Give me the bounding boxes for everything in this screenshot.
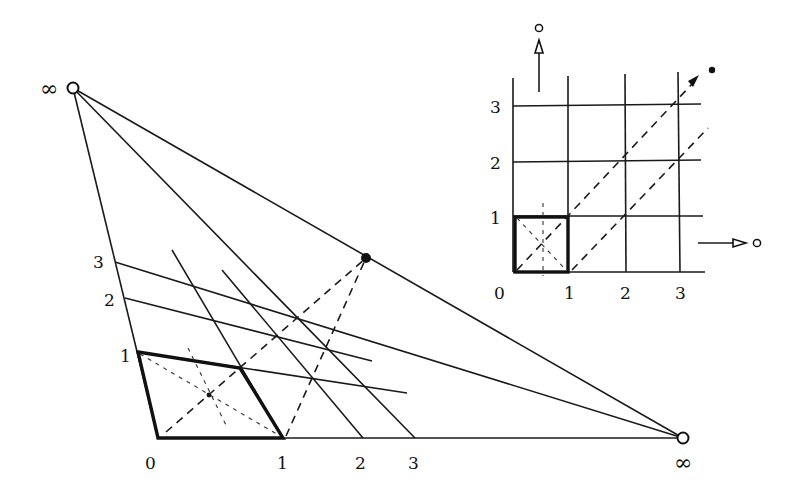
- inset-x-label-0: 0: [494, 283, 505, 303]
- cell-median: [188, 348, 226, 425]
- inset-diagonal-offset: [572, 128, 708, 270]
- diagonal-vanishing-point: [361, 253, 371, 263]
- right-arrow-head-icon: [733, 239, 746, 247]
- infinity-label-top: ∞: [40, 76, 58, 101]
- diagonal-target-dot: [709, 67, 715, 73]
- main-x-label-2: 2: [355, 453, 366, 473]
- inset-y-label-2: 2: [490, 153, 501, 173]
- inset-h-2: [513, 160, 701, 162]
- up-arrow-head-icon: [535, 40, 543, 53]
- main-y-label-1: 1: [120, 346, 131, 366]
- horizon-line: [73, 88, 683, 438]
- inset-v-2: [625, 74, 626, 272]
- inset-x-label-3: 3: [675, 283, 686, 303]
- inset-y-label-1: 1: [490, 208, 501, 228]
- inset-v-3: [678, 72, 680, 272]
- main-x-label-1: 1: [277, 453, 288, 473]
- inset-y-label-3: 3: [490, 97, 501, 117]
- infinity-point-bottom: [678, 433, 689, 444]
- inset-x-label-1: 1: [564, 283, 575, 303]
- up-arrow-target-circle: [535, 24, 542, 31]
- infinity-point-top: [68, 83, 79, 94]
- diagonal-arrow-head: [688, 75, 699, 87]
- main-perspective-figure: ∞ ∞ 0 1 2 3 1 2 3: [40, 76, 692, 475]
- right-arrow-target-circle: [753, 239, 760, 246]
- row-line-3: [115, 262, 683, 438]
- projective-grid-diagram: ∞ ∞ 0 1 2 3 1 2 3: [0, 0, 793, 496]
- inset-square-grid: 0 1 2 3 1 2 3: [490, 24, 761, 303]
- main-x-label-0: 0: [145, 453, 156, 473]
- inset-x-label-2: 2: [620, 283, 631, 303]
- main-x-label-3: 3: [408, 453, 419, 473]
- infinity-label-bottom: ∞: [674, 450, 692, 475]
- main-y-label-3: 3: [93, 252, 104, 272]
- main-y-label-2: 2: [104, 290, 115, 310]
